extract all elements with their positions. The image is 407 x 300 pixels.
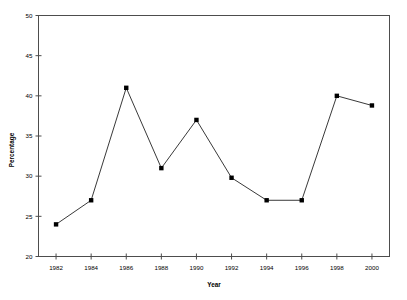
x-tick-label: 1982 xyxy=(49,264,63,271)
data-point-marker xyxy=(370,103,374,107)
y-tick-label: 35 xyxy=(26,132,33,139)
x-axis-title: Year xyxy=(207,281,221,288)
x-tick-label: 1988 xyxy=(154,264,168,271)
y-tick-label: 50 xyxy=(26,12,33,19)
data-point-marker xyxy=(89,198,93,202)
data-point-marker xyxy=(54,222,58,226)
y-tick-label: 40 xyxy=(26,92,33,99)
data-point-marker xyxy=(335,94,339,98)
x-tick-label: 1998 xyxy=(330,264,344,271)
y-tick-label: 30 xyxy=(26,172,33,179)
chart-background xyxy=(0,0,407,300)
data-point-marker xyxy=(124,86,128,90)
y-tick-label: 45 xyxy=(26,52,33,59)
data-point-marker xyxy=(159,166,163,170)
x-tick-label: 1986 xyxy=(119,264,133,271)
y-tick-label: 20 xyxy=(26,253,33,260)
x-tick-label: 1992 xyxy=(225,264,239,271)
x-tick-label: 1984 xyxy=(84,264,98,271)
data-point-marker xyxy=(229,176,233,180)
x-tick-label: 2000 xyxy=(365,264,379,271)
data-point-marker xyxy=(194,118,198,122)
data-point-marker xyxy=(300,198,304,202)
data-point-marker xyxy=(264,198,268,202)
y-tick-label: 25 xyxy=(26,213,33,220)
x-tick-label: 1996 xyxy=(295,264,309,271)
x-tick-label: 1990 xyxy=(190,264,204,271)
line-chart: 20253035404550 1982198419861988199019921… xyxy=(0,0,407,300)
y-axis-title: Percentage xyxy=(8,132,16,167)
x-tick-label: 1994 xyxy=(260,264,274,271)
chart-canvas: 20253035404550 1982198419861988199019921… xyxy=(0,0,407,300)
